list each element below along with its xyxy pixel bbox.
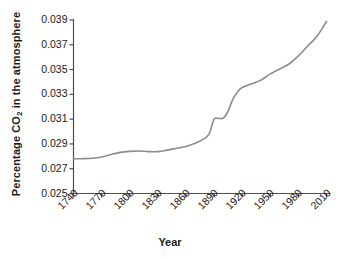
axes xyxy=(74,19,331,194)
chart-figure: Percentage CO2 in the atmosphere 0.0250.… xyxy=(0,0,340,259)
data-series-line xyxy=(74,21,327,158)
y-tick-label: 0.039 xyxy=(26,13,68,25)
y-tick-label: 0.035 xyxy=(26,63,68,75)
x-axis-label: Year xyxy=(0,236,340,248)
y-tick-label: 0.027 xyxy=(26,162,68,174)
y-tick-label: 0.033 xyxy=(26,87,68,99)
y-tick-label: 0.031 xyxy=(26,112,68,124)
y-tick-label: 0.037 xyxy=(26,38,68,50)
y-tick-label: 0.029 xyxy=(26,137,68,149)
